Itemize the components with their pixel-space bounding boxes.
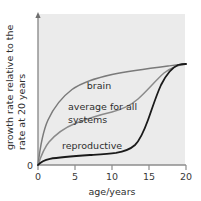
x-tick-label-0: 0 [35, 171, 41, 182]
y-axis-title-line2: rate at 20 years [16, 74, 27, 150]
curve-label-average-line2: systems [68, 114, 107, 125]
curve-label-brain: brain [87, 80, 111, 91]
x-axis-title: age/years [88, 186, 135, 197]
curve-label-average-line1: average for all [68, 101, 137, 112]
x-tick-label-15: 15 [143, 171, 155, 182]
curve-label-reproductive: reproductive [62, 140, 122, 151]
y-tick-label-0: 0 [27, 160, 33, 171]
x-tick-label-20: 20 [180, 171, 192, 182]
x-tick-label-10: 10 [106, 171, 118, 182]
y-axis-title-line1: growth rate relative to the [4, 24, 15, 150]
x-tick-label-5: 5 [72, 171, 78, 182]
chart-figure: 0 5 10 15 20 0 age/years growth rate rel… [0, 0, 201, 201]
growth-rate-line-chart: 0 5 10 15 20 0 age/years growth rate rel… [0, 0, 201, 201]
